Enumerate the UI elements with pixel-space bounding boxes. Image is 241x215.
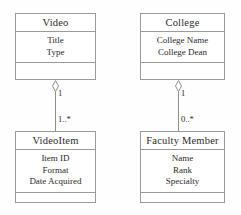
attribute-item: Rank	[143, 165, 222, 177]
attribute-item: Item ID	[18, 153, 93, 165]
multiplicity-label-part: 1..*	[58, 114, 71, 124]
attribute-item: College Dean	[143, 47, 222, 59]
class-operations-college	[141, 62, 224, 79]
attribute-item: College Name	[143, 35, 222, 47]
attribute-item: Type	[18, 47, 93, 59]
attribute-item: Format	[18, 165, 93, 177]
class-operations-faculty-member	[141, 192, 224, 203]
multiplicity-label-whole: 1	[58, 88, 62, 98]
attribute-item: Date Acquired	[18, 176, 93, 188]
class-attributes-video: Title Type	[16, 31, 95, 62]
class-operations-videoitem	[16, 192, 95, 203]
class-name-videoitem: VideoItem	[16, 132, 95, 149]
class-box-videoitem[interactable]: VideoItem Item ID Format Date Acquired	[15, 131, 96, 203]
attribute-item: Name	[143, 153, 222, 165]
class-attributes-videoitem: Item ID Format Date Acquired	[16, 149, 95, 192]
attribute-item: Title	[18, 35, 93, 47]
attribute-item: Specialty	[143, 176, 222, 188]
association-line-college-faculty-member	[178, 92, 179, 131]
class-attributes-college: College Name College Dean	[141, 31, 224, 62]
multiplicity-label-part: 0..*	[181, 114, 194, 124]
class-attributes-faculty-member: Name Rank Specialty	[141, 149, 224, 192]
uml-class-diagram: Video Title Type College College Name Co…	[0, 0, 241, 215]
class-box-faculty-member[interactable]: Faculty Member Name Rank Specialty	[140, 131, 225, 203]
class-name-faculty-member: Faculty Member	[141, 132, 224, 149]
multiplicity-label-whole: 1	[181, 88, 185, 98]
class-name-college: College	[141, 14, 224, 31]
class-box-video[interactable]: Video Title Type	[15, 13, 96, 80]
class-operations-video	[16, 62, 95, 79]
class-name-video: Video	[16, 14, 95, 31]
association-line-video-videoitem	[55, 92, 56, 131]
class-box-college[interactable]: College College Name College Dean	[140, 13, 225, 80]
